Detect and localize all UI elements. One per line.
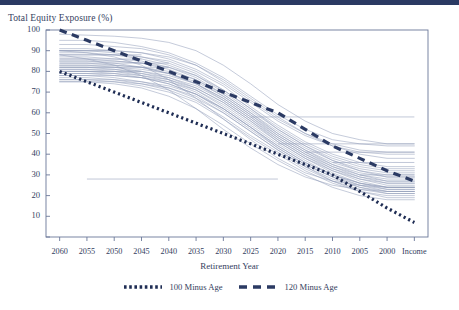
y-tick-label: 50 xyxy=(8,128,40,138)
y-tick-label: 30 xyxy=(8,169,40,179)
y-tick-label: 60 xyxy=(8,107,40,117)
y-tick-label: 80 xyxy=(8,65,40,75)
glide-path-group xyxy=(60,34,415,200)
y-tick-label: 40 xyxy=(8,148,40,158)
legend-label-120-minus-age: 120 Minus Age xyxy=(285,282,338,292)
glide-path-line xyxy=(60,51,415,159)
glide-path-line xyxy=(60,80,415,194)
legend-key-dashed-icon xyxy=(237,282,279,292)
glide-path-line xyxy=(60,67,415,183)
y-tick-label: 20 xyxy=(8,190,40,200)
chart-figure: Total Equity Exposure (%) Retirement Yea… xyxy=(0,0,459,310)
glide-path-line xyxy=(60,67,415,183)
glide-path-line xyxy=(60,65,415,181)
x-axis-title: Retirement Year xyxy=(0,261,459,271)
legend-entry-120-minus-age: 120 Minus Age xyxy=(237,282,338,292)
glide-path-line xyxy=(60,65,415,181)
legend-entry-100-minus-age: 100 Minus Age xyxy=(122,282,223,292)
glide-path-line xyxy=(60,44,415,152)
legend-label-100-minus-age: 100 Minus Age xyxy=(170,282,223,292)
series-line-100-minus-age xyxy=(60,71,415,222)
y-tick-label: 90 xyxy=(8,45,40,55)
glide-path-line xyxy=(60,73,415,187)
y-tick-label: 100 xyxy=(8,24,40,34)
y-tick-label: 10 xyxy=(8,210,40,220)
chart-legend: 100 Minus Age 120 Minus Age xyxy=(0,282,459,292)
legend-key-dotted-icon xyxy=(122,282,164,292)
x-tick-label: Income xyxy=(398,247,431,256)
glide-path-line xyxy=(60,78,415,194)
y-tick-label: 70 xyxy=(8,86,40,96)
